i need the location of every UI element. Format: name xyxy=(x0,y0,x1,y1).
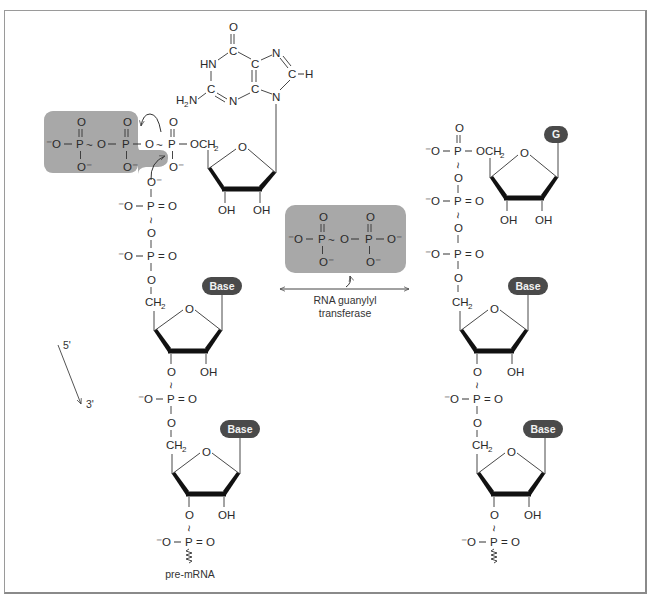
svg-text:O: O xyxy=(511,536,520,548)
svg-text:Base: Base xyxy=(209,280,234,292)
svg-text:C: C xyxy=(207,83,215,95)
svg-text:C: C xyxy=(288,68,296,80)
svg-text:O: O xyxy=(229,21,238,33)
pre-mrna-label: pre-mRNA xyxy=(165,568,215,580)
svg-text:Base: Base xyxy=(515,280,540,292)
right-nucleotide-1: CH 2 Base O O OH ~ ⁻O P = O O xyxy=(444,277,548,437)
svg-text:C: C xyxy=(251,83,259,95)
svg-text:O⁻: O⁻ xyxy=(77,161,92,173)
svg-text:O: O xyxy=(123,116,132,128)
svg-text:O: O xyxy=(319,211,328,223)
svg-text:O: O xyxy=(206,536,215,548)
svg-text:C: C xyxy=(251,58,259,70)
svg-text:OH: OH xyxy=(218,204,235,216)
svg-text:~: ~ xyxy=(156,139,163,151)
svg-text:⁻O: ⁻O xyxy=(156,536,171,548)
svg-text:P: P xyxy=(318,233,326,245)
svg-text:OH: OH xyxy=(253,204,270,216)
svg-text:O⁻: O⁻ xyxy=(366,256,381,268)
svg-text:P: P xyxy=(167,393,175,405)
svg-text:CH: CH xyxy=(472,439,489,451)
pyrophosphate-release-arrow xyxy=(346,276,351,287)
direction-indicator: 5' 3' xyxy=(58,339,94,410)
svg-text:P: P xyxy=(454,145,462,157)
svg-text:CH: CH xyxy=(145,296,162,308)
svg-text:OH: OH xyxy=(218,509,235,521)
svg-text:OH: OH xyxy=(535,214,552,226)
svg-text:OCH: OCH xyxy=(190,138,216,150)
svg-text:O: O xyxy=(454,172,463,184)
svg-text:N: N xyxy=(272,91,280,103)
svg-text:O: O xyxy=(490,509,499,521)
svg-text:2: 2 xyxy=(500,151,505,160)
enzyme-label-line1: RNA guanylyl xyxy=(313,294,376,306)
svg-text:~: ~ xyxy=(488,525,500,532)
svg-text:~: ~ xyxy=(165,382,177,389)
svg-text:N: N xyxy=(229,95,237,107)
svg-text:O: O xyxy=(366,211,375,223)
svg-text:=: = xyxy=(158,200,165,212)
svg-text:⁻O: ⁻O xyxy=(118,200,133,212)
svg-text:O: O xyxy=(202,446,211,458)
svg-text:P: P xyxy=(490,536,498,548)
svg-text:⁻O: ⁻O xyxy=(118,250,133,262)
svg-text:O: O xyxy=(185,303,194,315)
svg-text:O⁻: O⁻ xyxy=(147,176,162,188)
svg-text:=: = xyxy=(196,536,203,548)
svg-text:P: P xyxy=(365,233,373,245)
svg-text:P: P xyxy=(454,195,462,207)
svg-text:O: O xyxy=(520,147,529,159)
curved-arrow-leaving xyxy=(141,114,161,132)
svg-text:N: N xyxy=(272,47,280,59)
svg-text:O: O xyxy=(185,509,194,521)
svg-text:O: O xyxy=(454,222,463,234)
svg-text:O: O xyxy=(473,417,482,429)
svg-text:O: O xyxy=(169,116,178,128)
svg-text:⁻O: ⁻O xyxy=(138,393,153,405)
svg-text:=: = xyxy=(484,393,491,405)
svg-text:OCH: OCH xyxy=(476,145,502,157)
svg-text:O: O xyxy=(147,227,156,239)
svg-text:N: N xyxy=(189,94,197,106)
svg-text:=: = xyxy=(178,393,185,405)
svg-text:O⁻: O⁻ xyxy=(319,256,334,268)
svg-text:P: P xyxy=(454,248,462,260)
svg-text:OH: OH xyxy=(200,366,217,378)
svg-text:~: ~ xyxy=(328,234,335,246)
svg-text:O: O xyxy=(455,122,464,134)
svg-text:~: ~ xyxy=(145,217,157,224)
svg-text:OH: OH xyxy=(507,366,524,378)
svg-text:O: O xyxy=(475,248,484,260)
svg-text:O: O xyxy=(97,138,106,150)
enzyme-label-line2: transferase xyxy=(319,307,372,319)
svg-text:H: H xyxy=(305,68,313,80)
svg-text:O: O xyxy=(168,250,177,262)
svg-text:2: 2 xyxy=(161,302,166,311)
svg-text:=: = xyxy=(465,195,472,207)
svg-text:O⁻: O⁻ xyxy=(169,161,184,173)
svg-text:⁻O: ⁻O xyxy=(425,195,440,207)
svg-text:O: O xyxy=(507,446,516,458)
left-nucleotide-2: CH 2 Base O O OH ~ ⁻O P = O pre-mRNA xyxy=(156,420,260,580)
svg-text:⁻O: ⁻O xyxy=(425,145,440,157)
cap-guanosine-ribose: G O OH OH xyxy=(490,126,568,226)
svg-text:C: C xyxy=(229,45,237,57)
svg-text:O: O xyxy=(475,195,484,207)
svg-text:OH: OH xyxy=(524,509,541,521)
cap-triphosphate-bridge: O ⁻O P OCH 2 ~ O ⁻O P = O ~ O ⁻O P = O O xyxy=(425,122,505,292)
svg-text:Base: Base xyxy=(227,423,252,435)
svg-text:=: = xyxy=(158,250,165,262)
svg-text:P: P xyxy=(147,250,155,262)
svg-text:O: O xyxy=(77,116,86,128)
svg-text:⁻O: ⁻O xyxy=(461,536,476,548)
reaction-diagram: O ⁻O P ~ O O⁻ O P O O⁻ ~ O P OCH 2 O⁻ O … xyxy=(0,0,658,606)
svg-text:O: O xyxy=(454,272,463,284)
svg-text:O: O xyxy=(494,393,503,405)
svg-text:=: = xyxy=(465,248,472,260)
svg-text:5': 5' xyxy=(63,339,71,351)
svg-text:O: O xyxy=(490,303,499,315)
svg-text:⁻O: ⁻O xyxy=(425,248,440,260)
svg-text:Base: Base xyxy=(530,423,555,435)
svg-text:2: 2 xyxy=(214,144,219,153)
svg-text:CH: CH xyxy=(166,439,183,451)
